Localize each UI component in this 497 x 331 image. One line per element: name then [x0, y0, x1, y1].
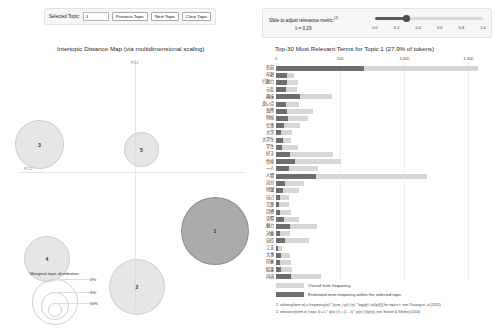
term-row[interactable]: 行動力: [254, 79, 497, 85]
term-row[interactable]: 名前: [254, 65, 497, 71]
term-row[interactable]: 自分: [254, 180, 497, 186]
bar-estimated: [276, 166, 289, 171]
term-label[interactable]: 好き: [254, 151, 274, 157]
term-label[interactable]: 対象: [254, 231, 274, 237]
term-row[interactable]: 趣味: [254, 94, 497, 100]
term-label[interactable]: 目標: [254, 209, 274, 215]
topic-bubble-3[interactable]: 3: [15, 120, 64, 169]
term-row[interactable]: 大事: [254, 252, 497, 258]
bar-overall: [276, 152, 333, 157]
bar-estimated: [276, 253, 281, 258]
bar-overall: [276, 188, 299, 193]
term-row[interactable]: 工夫: [254, 245, 497, 251]
slider-handle[interactable]: [403, 15, 410, 22]
clear-topic-button[interactable]: Clear Topic: [182, 12, 211, 21]
term-row[interactable]: 結果: [254, 267, 497, 273]
term-row[interactable]: 学生: [254, 144, 497, 150]
term-row[interactable]: 好き: [254, 151, 497, 157]
barchart-footer: Overall term frequency Estimated term fr…: [254, 283, 497, 331]
term-label[interactable]: 年齢: [254, 72, 274, 78]
term-row[interactable]: 印象: [254, 259, 497, 265]
bar-estimated: [276, 102, 286, 107]
topic-bubble-label: 3: [38, 142, 41, 148]
term-label[interactable]: 実際: [254, 216, 274, 222]
selected-topic-input[interactable]: [83, 12, 109, 21]
term-label[interactable]: 人間: [254, 173, 274, 179]
previous-topic-button[interactable]: Previous Topic: [112, 12, 148, 21]
bar-estimated: [276, 80, 287, 85]
term-row[interactable]: 魅力: [254, 223, 497, 229]
bar-estimated: [276, 181, 285, 186]
term-row[interactable]: 実際: [254, 216, 497, 222]
intertopic-distance-map[interactable]: PC2 PC1 12345 Marginal topic distributio…: [0, 56, 252, 331]
relevance-slider[interactable]: 0.00.20.40.60.81.0: [375, 13, 483, 33]
term-row[interactable]: 長所: [254, 108, 497, 114]
mds-x-axis: [20, 172, 245, 173]
term-row[interactable]: 特技: [254, 115, 497, 121]
term-label[interactable]: 内容: [254, 274, 274, 280]
next-topic-button[interactable]: Next Topic: [151, 12, 179, 21]
term-label[interactable]: 言葉: [254, 202, 274, 208]
legend-title: Marginal topic distribution: [30, 271, 125, 276]
bar-estimated: [276, 174, 316, 179]
term-label[interactable]: 特技: [254, 115, 274, 121]
term-label[interactable]: 長所: [254, 108, 274, 114]
term-row[interactable]: 目標: [254, 209, 497, 215]
term-label[interactable]: 自信: [254, 238, 274, 244]
topic-bubble-5[interactable]: 5: [124, 132, 159, 167]
term-row[interactable]: 自信: [254, 238, 497, 244]
topic-bubble-label: 1: [214, 228, 217, 234]
term-row[interactable]: 自己: [254, 195, 497, 201]
term-row[interactable]: 仕事: [254, 123, 497, 129]
term-label[interactable]: 性格: [254, 159, 274, 165]
bar-estimated: [276, 159, 295, 164]
term-label[interactable]: 大学: [254, 130, 274, 136]
term-row[interactable]: 特徴: [254, 187, 497, 193]
term-row[interactable]: 大学生: [254, 137, 497, 143]
term-label[interactable]: 自分: [254, 180, 274, 186]
term-label[interactable]: 行動力: [254, 79, 274, 85]
term-label[interactable]: 一人: [254, 166, 274, 172]
bar-estimated: [276, 238, 285, 243]
topic-bubble-1[interactable]: 1: [181, 197, 249, 265]
topic-bubble-label: 2: [136, 284, 139, 290]
bar-overall: [276, 224, 317, 229]
term-row[interactable]: 年齢: [254, 72, 497, 78]
term-label[interactable]: 大学生: [254, 137, 274, 143]
term-row[interactable]: 対象: [254, 231, 497, 237]
term-label[interactable]: 印象: [254, 259, 274, 265]
term-label[interactable]: 良い点: [254, 101, 274, 107]
bar-overall: [276, 87, 297, 92]
term-row[interactable]: 良い点: [254, 101, 497, 107]
term-label[interactable]: 名前: [254, 65, 274, 71]
term-label[interactable]: 学生: [254, 144, 274, 150]
term-label[interactable]: 魅力: [254, 223, 274, 229]
bar-overall: [276, 166, 318, 171]
topic-selection-toolbar: Selected Topic: Previous Topic Next Topi…: [44, 8, 216, 25]
slider-tick-0-4: 0.4: [415, 25, 421, 30]
term-row[interactable]: 一人: [254, 166, 497, 172]
bar-estimated: [276, 260, 280, 265]
bar-estimated: [276, 73, 287, 78]
bar-overall: [276, 145, 298, 150]
bar-estimated: [276, 202, 279, 207]
term-label[interactable]: 元気: [254, 87, 274, 93]
term-label[interactable]: 工夫: [254, 245, 274, 251]
mds-axis-label-pc2: PC2: [131, 60, 139, 65]
term-row[interactable]: 性格: [254, 159, 497, 165]
term-label[interactable]: 自己: [254, 195, 274, 201]
slider-tick-labels: 0.00.20.40.60.81.0: [375, 25, 483, 33]
term-row[interactable]: 元気: [254, 87, 497, 93]
term-label[interactable]: 大事: [254, 252, 274, 258]
term-row[interactable]: 言葉: [254, 202, 497, 208]
term-row[interactable]: 内容: [254, 274, 497, 280]
bar-overall: [276, 174, 427, 179]
term-label[interactable]: 仕事: [254, 123, 274, 129]
term-label[interactable]: 結果: [254, 267, 274, 273]
term-label[interactable]: 趣味: [254, 94, 274, 100]
term-label[interactable]: 特徴: [254, 187, 274, 193]
bar-overall: [276, 123, 300, 128]
slider-tick-0-6: 0.6: [437, 25, 443, 30]
term-row[interactable]: 大学: [254, 130, 497, 136]
term-row[interactable]: 人間: [254, 173, 497, 179]
